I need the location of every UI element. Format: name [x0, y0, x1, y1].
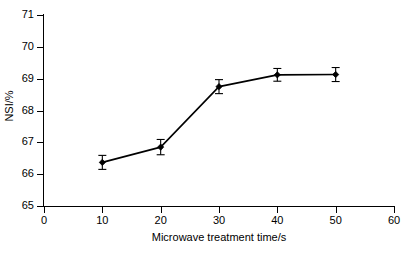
x-axis-tick-label: 20 [141, 215, 181, 226]
y-axis-spine [43, 14, 44, 207]
y-axis-tick-label: 67 [0, 136, 34, 147]
y-axis-tick-label: 65 [0, 200, 34, 211]
data-point-group [98, 155, 106, 169]
x-axis-tick-label: 50 [316, 215, 356, 226]
data-point-group [215, 80, 223, 94]
y-axis-tick [37, 47, 43, 48]
x-axis-tick [277, 207, 278, 213]
y-axis-tick-label: 66 [0, 168, 34, 179]
x-axis-tick [102, 207, 103, 213]
x-axis-title: Microwave treatment time/s [44, 231, 394, 243]
y-axis-tick [37, 142, 43, 143]
x-axis-tick [219, 207, 220, 213]
x-axis-tick-label: 30 [199, 215, 239, 226]
y-axis-tick [37, 111, 43, 112]
x-axis-tick [161, 207, 162, 213]
chart-figure: 65666768697071 0102030405060 NSI/% Micro… [0, 0, 414, 254]
x-axis-tick [336, 207, 337, 213]
y-axis-tick-label: 70 [0, 41, 34, 52]
x-axis-tick-label: 0 [24, 215, 64, 226]
data-point-marker [216, 84, 222, 90]
series-line [102, 75, 335, 163]
data-point-marker [158, 144, 164, 150]
data-point-marker [99, 159, 105, 165]
data-point-marker [274, 72, 280, 78]
y-axis-tick [37, 174, 43, 175]
data-point-marker [333, 71, 339, 77]
data-point-group [157, 139, 165, 154]
x-axis-tick-label: 60 [374, 215, 414, 226]
x-axis-tick [394, 207, 395, 213]
y-axis-title: NSI/% [3, 76, 15, 136]
data-point-group [273, 68, 281, 81]
x-axis-tick-label: 40 [257, 215, 297, 226]
y-axis-tick [37, 15, 43, 16]
data-point-group [332, 68, 340, 82]
y-axis-tick-label: 71 [0, 9, 34, 20]
y-axis-tick [37, 206, 43, 207]
x-axis-tick-label: 10 [82, 215, 122, 226]
x-axis-tick [44, 207, 45, 213]
y-axis-tick [37, 79, 43, 80]
